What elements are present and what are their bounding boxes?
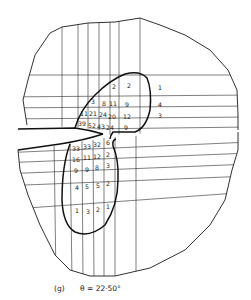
value-cell: 9 (74, 167, 78, 174)
value-cell: 11 (109, 100, 117, 107)
value-cell: 20 (108, 113, 116, 120)
value-cell: 9 (85, 166, 89, 173)
value-cell: 24 (99, 111, 107, 118)
value-cell: 52 (88, 122, 96, 129)
value-cell: 2 (106, 180, 110, 187)
value-cell: 24 (106, 124, 114, 131)
value-cell: 1 (158, 84, 162, 91)
value-cell: 3 (158, 112, 162, 119)
value-cell: 8 (95, 164, 99, 171)
figure-equation: θ = 22·50° (80, 284, 121, 293)
value-cell: 11 (80, 110, 88, 117)
notch-upper-edge (18, 128, 103, 134)
value-cell: 5 (96, 182, 100, 189)
value-cell: 11 (83, 154, 91, 161)
specimen-diagram: 2 2 1 3 8 11 9 4 11 21 24 20 12 3 39 52 … (0, 0, 251, 300)
value-cell: 3 (91, 98, 95, 105)
value-cell: 21 (89, 110, 97, 117)
value-cell: 1 (106, 203, 110, 210)
value-cell: 32 (93, 141, 101, 148)
value-cell: 3 (86, 208, 90, 215)
lower-outline (18, 132, 238, 276)
value-cell: 9 (124, 124, 128, 131)
value-cell: 9 (125, 101, 129, 108)
value-cell: 2 (127, 82, 131, 89)
value-cell: 4 (75, 184, 79, 191)
lower-grid (0, 134, 251, 280)
value-cell: 33 (83, 143, 91, 150)
value-cell: 1 (75, 207, 79, 214)
value-cell: 2 (106, 151, 110, 158)
value-cell: 5 (85, 183, 89, 190)
value-cell: 2 (96, 206, 100, 213)
value-cell: 39 (78, 120, 86, 127)
value-cell: 6 (106, 139, 110, 146)
value-cell: 12 (93, 153, 101, 160)
value-cell: 2 (112, 83, 116, 90)
value-cell: 4 (158, 101, 162, 108)
value-cell: 12 (123, 113, 131, 120)
figure-label: (g) (54, 284, 65, 293)
value-cell: 43 (97, 123, 105, 130)
value-cell: 33 (72, 145, 80, 152)
value-cell: 16 (72, 156, 80, 163)
value-cell: 3 (106, 162, 110, 169)
value-cell: 8 (102, 100, 106, 107)
